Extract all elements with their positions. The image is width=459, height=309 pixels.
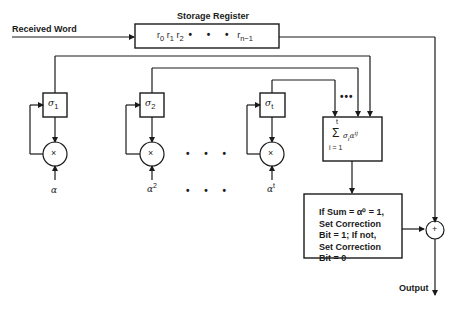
r2-sub: 2 <box>179 34 183 43</box>
alpha-2-label: α2 <box>147 182 157 194</box>
sum-lower-limit: i = 1 <box>329 144 342 151</box>
r1-sub: 1 <box>170 34 174 43</box>
r0-sub: 0 <box>160 34 164 43</box>
alpha-1-label: α <box>51 182 57 195</box>
sigma-t-label: σt <box>265 98 273 111</box>
alpha-t-label: αt <box>267 182 275 194</box>
multiplier-1-icon: × <box>51 148 56 158</box>
ellipsis-middle: • • • <box>186 148 232 159</box>
decision-line-3: Bit = 1; If not, <box>319 230 384 242</box>
multiplier-t-icon: × <box>268 148 273 158</box>
decision-line-1: If Sum = α⁰ = 1, <box>319 207 384 219</box>
decision-line-4: Set Correction <box>319 242 384 254</box>
sigma-1-label: σ1 <box>48 98 58 111</box>
output-label: Output <box>399 283 429 293</box>
decision-text: If Sum = α⁰ = 1, Set Correction Bit = 1;… <box>319 207 384 265</box>
sum-term: σiαij <box>343 130 358 142</box>
sum-sigma-icon: Σ <box>332 126 339 140</box>
decision-line-2: Set Correction <box>319 219 384 231</box>
multiplier-2-icon: × <box>148 148 153 158</box>
sum-upper-limit: t <box>336 118 338 125</box>
decision-line-5: Bit = 0 <box>319 253 384 265</box>
rn-sub: n−1 <box>240 34 253 43</box>
received-word-label: Received Word <box>12 24 77 34</box>
adder-icon: + <box>432 224 437 234</box>
sigma-2-label: σ2 <box>145 98 155 111</box>
register-ellipsis: • • • <box>189 29 235 40</box>
ellipsis-top: ••• <box>340 91 354 102</box>
ellipsis-bottom: • • • <box>186 185 232 196</box>
storage-register-title: Storage Register <box>177 11 249 21</box>
storage-register-content: r0 r1 r2 • • • rn−1 <box>157 29 253 43</box>
